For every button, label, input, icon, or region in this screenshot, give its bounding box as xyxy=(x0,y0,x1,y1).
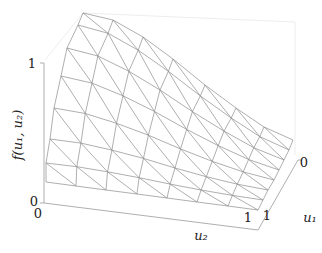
mesh-edge-col xyxy=(289,140,293,150)
mesh-edge-diag xyxy=(113,20,138,50)
mesh-edge-row xyxy=(129,71,160,90)
mesh-edge-col xyxy=(117,96,124,124)
mesh-edge-col xyxy=(249,148,254,160)
mesh-edge-row xyxy=(224,131,254,148)
mesh-edge-diag xyxy=(54,108,81,143)
mesh-edge-col xyxy=(54,76,61,108)
z-axis-label: f(u₁, u₂) xyxy=(10,110,25,161)
u2-axis-line xyxy=(44,203,258,230)
mesh-edge-col xyxy=(263,190,268,200)
mesh-edge-diag xyxy=(81,143,108,172)
mesh-edge-col xyxy=(201,177,206,190)
mesh-edge-row xyxy=(231,118,260,137)
mesh-edge-col xyxy=(212,146,218,162)
mesh-edge-diag xyxy=(212,161,237,184)
mesh-edge-row xyxy=(197,202,228,206)
mesh-edge-diag xyxy=(264,127,289,150)
mesh-edge-col xyxy=(206,161,212,176)
mesh-edge-row xyxy=(112,150,144,158)
mesh-edge-row xyxy=(249,160,279,171)
mesh-edge-col xyxy=(92,56,98,83)
mesh-edge-col xyxy=(187,112,193,130)
mesh-edge-col xyxy=(123,71,129,96)
mesh-edge-row xyxy=(50,139,81,143)
mesh-edge-col xyxy=(108,150,112,172)
mesh-edge-col xyxy=(232,184,237,195)
mesh-edge-col xyxy=(61,48,67,76)
mesh-edge-row xyxy=(155,112,187,130)
mesh-edge-diag xyxy=(50,139,77,167)
mesh-edge-col xyxy=(106,172,108,190)
mesh-edge-col xyxy=(284,150,289,160)
mesh-edge-diag xyxy=(92,83,117,123)
mesh-edge-row xyxy=(54,108,85,114)
surface-plot: 1 0 0 1 1 0 u₂ u₁ f(u₁, u₂) xyxy=(0,0,322,253)
mesh-edge-row xyxy=(264,127,293,140)
mesh-edge-col xyxy=(139,158,143,177)
mesh-edge-row xyxy=(77,167,108,172)
mesh-edge-row xyxy=(168,71,200,96)
mesh-edge-col xyxy=(279,160,284,170)
mesh-edge-col xyxy=(274,170,279,180)
mesh-edge-col xyxy=(77,143,81,167)
mesh-edge-col xyxy=(260,127,264,137)
mesh-edge-col xyxy=(78,13,83,25)
mesh-edge-col xyxy=(148,112,154,136)
u2-tick-label-0: 0 xyxy=(34,206,42,221)
mesh-edge-row xyxy=(138,50,168,71)
mesh-edge-col xyxy=(168,59,173,71)
mesh-edge-col xyxy=(155,90,161,112)
mesh-edge-col xyxy=(167,184,170,198)
mesh-edge-col xyxy=(76,167,77,186)
mesh-edge-diag xyxy=(243,172,268,190)
mesh-edge-col xyxy=(108,20,113,33)
mesh-edge-col xyxy=(218,131,224,146)
mesh-edge-diag xyxy=(85,114,112,151)
u2-axis-label: u₂ xyxy=(194,228,208,243)
mesh-edge-col xyxy=(98,33,108,56)
mesh-edge-diag xyxy=(61,76,85,114)
mesh-edge-col xyxy=(231,108,236,118)
mesh-edge-col xyxy=(268,180,274,190)
u1-tick-label-1: 1 xyxy=(263,208,271,223)
mesh-edge-col xyxy=(200,85,205,96)
mesh-edge-col xyxy=(197,190,201,202)
mesh-edge-col xyxy=(170,168,175,184)
mesh-edge-col xyxy=(175,149,181,168)
mesh-edge-diag xyxy=(148,135,175,168)
mesh-edge-row xyxy=(200,96,231,118)
mesh-edge-row xyxy=(260,137,289,150)
mesh-edge-diag xyxy=(181,149,207,177)
mesh-edge-col xyxy=(138,37,143,50)
mesh-edge-col xyxy=(160,71,168,90)
mesh-edge-diag xyxy=(168,71,192,111)
mesh-edge-col xyxy=(243,160,248,172)
mesh-edge-col xyxy=(237,172,243,184)
mesh-edge-diag xyxy=(200,96,224,131)
surface-mesh xyxy=(46,13,293,210)
mesh-edge-col xyxy=(192,96,200,112)
mesh-edge-row xyxy=(218,146,248,160)
u2-tick-label-1: 1 xyxy=(244,210,252,225)
z-tick-label-1: 1 xyxy=(28,56,36,71)
mesh-edge-row xyxy=(187,129,219,145)
u1-tick-label-0: 0 xyxy=(300,155,308,170)
mesh-edge-col xyxy=(46,139,50,163)
mesh-edge-col xyxy=(224,118,231,131)
mesh-edge-diag xyxy=(236,108,260,137)
mesh-edge-col xyxy=(67,25,78,48)
mesh-edge-col xyxy=(50,108,54,139)
mesh-edge-diag xyxy=(123,96,148,135)
mesh-edge-col xyxy=(129,50,138,71)
mesh-edge-col xyxy=(254,137,260,148)
mesh-edge-diag xyxy=(138,50,160,90)
mesh-edge-row xyxy=(254,148,284,160)
mesh-edge-col xyxy=(228,195,232,206)
mesh-edge-col xyxy=(137,178,139,194)
axes xyxy=(40,63,302,230)
mesh-edge-col xyxy=(181,129,187,149)
mesh-edge-col xyxy=(144,135,149,158)
mesh-edge-col xyxy=(85,83,92,113)
u1-axis-label: u₁ xyxy=(303,210,317,225)
mesh-edge-row xyxy=(143,37,173,59)
